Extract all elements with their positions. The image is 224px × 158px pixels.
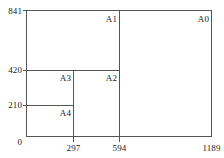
region-label-a1: A1 [84,14,117,24]
y-axis-tick-label-420: 420 [0,65,22,75]
axis-origin-label-0: 0 [0,137,22,147]
x-axis-tick-label-297: 297 [58,143,89,153]
x-axis-tick-label-1189: 1189 [196,143,224,153]
paper-size-diagram: 841 420 210 0 297 594 1189 A0 A1 A2 A3 A… [0,0,224,158]
x-axis-tick-marks [74,137,120,142]
region-label-a0: A0 [176,14,209,24]
region-label-a3: A3 [38,73,71,83]
y-axis-tick-label-841: 841 [0,6,22,16]
region-label-a2: A2 [84,73,117,83]
y-axis-tick-label-210: 210 [0,100,22,110]
x-axis-tick-label-594: 594 [104,143,135,153]
region-label-a4: A4 [38,108,71,118]
